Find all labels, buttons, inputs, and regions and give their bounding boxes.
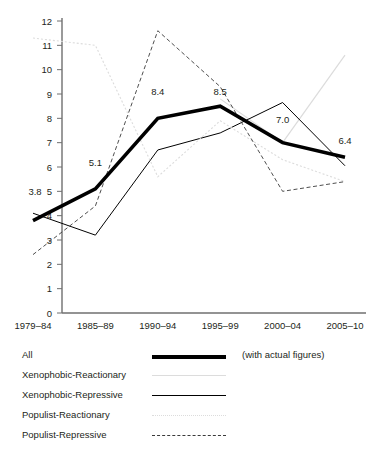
legend-swatch-line bbox=[152, 375, 226, 376]
y-axis-tick-label: 9 bbox=[47, 89, 52, 100]
y-axis-tick-label: 8 bbox=[47, 113, 52, 124]
chart-plot-area: 1211109876543210 1979–841985–891990–9419… bbox=[0, 0, 371, 340]
y-axis-tick-label: 5 bbox=[47, 186, 52, 197]
data-point-label: 3.8 bbox=[28, 186, 41, 197]
legend-line-swatch bbox=[152, 385, 226, 405]
figure-container: 1211109876543210 1979–841985–891990–9419… bbox=[0, 0, 371, 450]
legend-label: Populist-Repressive bbox=[0, 425, 152, 445]
data-point-label: 7.0 bbox=[276, 114, 289, 125]
legend-line-swatch bbox=[152, 425, 226, 445]
y-axis-tick-label: 6 bbox=[47, 162, 52, 173]
legend-row: All(with actual figures) bbox=[0, 345, 371, 365]
legend-line-swatch bbox=[152, 345, 226, 365]
legend-line-swatch bbox=[152, 405, 226, 425]
x-axis-tick-label: 2000–04 bbox=[264, 320, 301, 331]
legend-row: Xenophobic-Repressive bbox=[0, 385, 371, 405]
legend-row: Populist-Reactionary bbox=[0, 405, 371, 425]
legend-label: All bbox=[0, 345, 152, 365]
legend-swatch-line bbox=[152, 435, 226, 436]
y-axis-tick-label: 7 bbox=[47, 137, 52, 148]
legend-swatch-line bbox=[152, 415, 226, 416]
x-axis-tick-label: 2005–10 bbox=[327, 320, 364, 331]
y-axis-tick-label: 2 bbox=[47, 259, 52, 270]
legend-note: (with actual figures) bbox=[226, 345, 324, 365]
legend-swatch-line bbox=[152, 395, 226, 396]
series-line bbox=[33, 103, 345, 236]
y-axis-tick-label: 10 bbox=[41, 64, 52, 75]
legend-line-swatch bbox=[152, 365, 226, 385]
series-line bbox=[33, 106, 345, 220]
data-point-label: 8.5 bbox=[214, 86, 227, 97]
x-axis-tick-label: 1995–99 bbox=[202, 320, 239, 331]
legend-label: Xenophobic-Repressive bbox=[0, 385, 152, 405]
y-axis-tick-label: 12 bbox=[41, 16, 52, 27]
series-line bbox=[220, 55, 345, 143]
y-axis-tick-labels: 1211109876543210 bbox=[41, 16, 62, 319]
legend-label: Xenophobic-Reactionary bbox=[0, 365, 152, 385]
x-axis-tick-label: 1985–89 bbox=[77, 320, 114, 331]
y-axis-tick-label: 0 bbox=[47, 308, 52, 319]
line-chart-svg: 1211109876543210 1979–841985–891990–9419… bbox=[0, 0, 371, 340]
legend-row: Xenophobic-Reactionary bbox=[0, 365, 371, 385]
y-axis-tick-label: 11 bbox=[42, 40, 52, 51]
series-paths-group bbox=[33, 31, 345, 255]
legend-label: Populist-Reactionary bbox=[0, 405, 152, 425]
data-point-label: 5.1 bbox=[89, 157, 102, 168]
legend-row: Populist-Repressive bbox=[0, 425, 371, 445]
x-axis-tick-label: 1979–84 bbox=[15, 320, 52, 331]
data-point-label: 8.4 bbox=[151, 86, 164, 97]
series-line bbox=[33, 31, 345, 255]
y-axis-tick-label: 1 bbox=[47, 283, 52, 294]
chart-legend: All(with actual figures)Xenophobic-React… bbox=[0, 345, 371, 450]
x-axis-tick-labels: 1979–841985–891990–941995–992000–042005–… bbox=[15, 320, 364, 331]
x-axis-tick-label: 1990–94 bbox=[139, 320, 176, 331]
series-line bbox=[33, 38, 345, 182]
data-point-label: 6.4 bbox=[338, 135, 351, 146]
legend-swatch-line bbox=[152, 355, 226, 359]
